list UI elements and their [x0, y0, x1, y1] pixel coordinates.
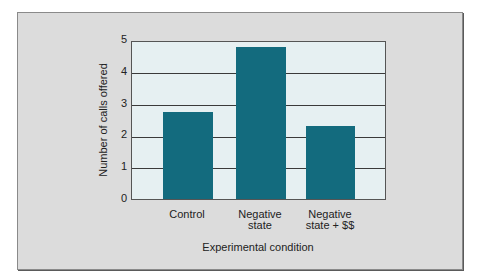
x-tick-control-line1: Control [147, 209, 227, 220]
y-tick-3: 3 [113, 97, 127, 109]
bar-negative-state-money [306, 126, 355, 199]
x-tick-control: Control [147, 209, 227, 220]
x-tick-negative-state-line2: state [220, 220, 300, 231]
x-tick-negative-state: Negative state [220, 209, 300, 231]
y-tick-5: 5 [113, 33, 127, 45]
y-tick-4: 4 [113, 65, 127, 77]
y-tick-1: 1 [113, 160, 127, 172]
y-tick-2: 2 [113, 128, 127, 140]
x-tick-negative-state-money-line2: state + $$ [290, 220, 370, 231]
x-tick-negative-state-money: Negative state + $$ [290, 209, 370, 231]
bar-negative-state [236, 47, 286, 199]
x-axis-label: Experimental condition [202, 241, 313, 253]
y-tick-0: 0 [113, 192, 127, 204]
y-axis-label: Number of calls offered [97, 63, 109, 177]
plot-area [131, 41, 386, 200]
bar-control [163, 112, 213, 199]
